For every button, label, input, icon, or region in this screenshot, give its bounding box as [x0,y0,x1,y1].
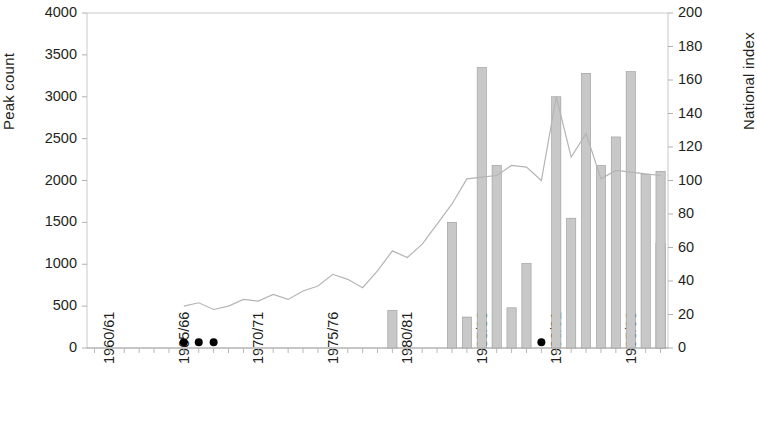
data-point-marker [210,338,218,346]
data-point-marker [195,338,203,346]
bar [611,137,620,348]
bar [567,218,576,348]
bar [462,317,471,348]
axis-frame [87,13,668,348]
bar [626,72,635,348]
bar [522,263,531,348]
bar [447,222,456,348]
data-point-marker [537,338,545,346]
bar [656,171,665,348]
bar [492,165,501,348]
bar [477,67,486,348]
bar [641,175,650,348]
marker-series [180,338,546,346]
bar-series [388,67,665,348]
bar [596,165,605,348]
bar [581,73,590,348]
bar [388,310,397,348]
bar [552,97,561,348]
bar [507,308,516,348]
data-point-marker [180,338,188,346]
